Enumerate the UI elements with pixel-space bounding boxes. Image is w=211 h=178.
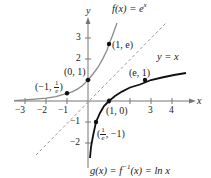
annotation-1-e: (1, e) <box>112 40 133 50</box>
ln-curve-label: g(x) = f−1(x) = ln x <box>90 164 170 176</box>
y-tick-3: 3 <box>76 33 81 43</box>
annotation-1-0: (1, 0) <box>106 106 128 116</box>
y-tick-2: 2 <box>76 54 81 64</box>
annotation-0-1: (0, 1) <box>64 67 86 77</box>
x-axis-arrow-icon <box>189 99 196 104</box>
point-1-over-e-neg1 <box>94 120 98 124</box>
point-1-0 <box>107 99 111 103</box>
ln-curve <box>90 73 186 158</box>
x-axis-label: x <box>197 96 201 106</box>
x-tick-neg2: −2 <box>37 106 47 116</box>
point-e-1 <box>143 78 147 82</box>
y-axis-label: y <box>86 6 90 16</box>
annotation-neg1-1-over-e: (−1, 1e) <box>35 80 63 95</box>
x-tick-3: 3 <box>148 106 153 116</box>
point-0-1 <box>86 78 90 82</box>
x-tick-neg3: −3 <box>15 106 25 116</box>
annotation-1-over-e-neg1: (1e, −1) <box>97 127 125 142</box>
x-tick-neg1: −1 <box>58 106 68 116</box>
y-tick-neg2: −2 <box>70 138 80 148</box>
point-1-e <box>107 42 111 46</box>
y-tick-neg1: −1 <box>70 117 80 127</box>
chart-canvas <box>0 0 211 178</box>
exp-curve <box>14 23 117 101</box>
y-axis-arrow-icon <box>86 17 91 24</box>
identity-line-label: y = x <box>157 52 179 63</box>
annotation-e-1: (e, 1) <box>129 68 150 78</box>
x-tick-4: 4 <box>169 106 174 116</box>
exp-curve-label: f(x) = ex <box>112 2 147 14</box>
point-neg1-1-over-e <box>65 91 69 95</box>
